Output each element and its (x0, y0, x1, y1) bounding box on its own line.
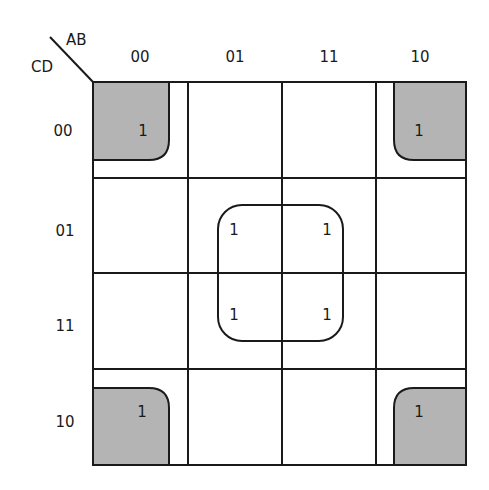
corner-group-top-right (394, 82, 466, 160)
row-header-01: 01 (55, 222, 74, 240)
column-header-10: 10 (410, 48, 429, 66)
karnaugh-map: AB CD 00 01 11 10 00 01 11 10 1 1 1 1 1 … (0, 0, 489, 490)
row-header-00: 00 (53, 122, 72, 140)
cell-r2-c1: 1 (229, 306, 239, 324)
cell-r1-c2: 1 (322, 221, 332, 239)
column-header-00: 00 (130, 48, 149, 66)
column-header-11: 11 (319, 48, 338, 66)
cell-r3-c3: 1 (414, 403, 424, 421)
cell-r0-c3: 1 (414, 122, 424, 140)
row-variable-label: CD (31, 58, 53, 76)
corner-group-top-left (93, 82, 169, 160)
row-header-10: 10 (55, 413, 74, 431)
corner-group-bottom-right (394, 388, 466, 465)
cell-r0-c0: 1 (138, 122, 148, 140)
cell-r2-c2: 1 (322, 306, 332, 324)
column-header-01: 01 (225, 48, 244, 66)
cell-r3-c0: 1 (137, 403, 147, 421)
row-header-11: 11 (55, 317, 74, 335)
column-variable-label: AB (66, 31, 87, 49)
cell-r1-c1: 1 (229, 221, 239, 239)
corner-group-bottom-left (93, 388, 169, 465)
